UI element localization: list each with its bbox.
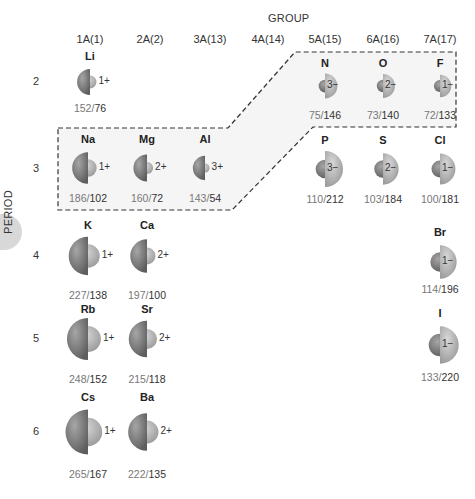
atomic-radius: 160 <box>131 192 149 204</box>
group-column-header: 6A(16) <box>353 33 413 45</box>
atom-ion-sphere-icon <box>165 138 245 198</box>
ionic-radius: 181 <box>441 193 459 205</box>
group-axis-title: GROUP <box>268 12 309 24</box>
ionic-radius: 72 <box>151 192 163 204</box>
ion-charge-label: 3− <box>327 79 338 90</box>
ion-charge-label: 1− <box>442 79 453 90</box>
ionic-radius: 220 <box>441 371 459 383</box>
atomic-radius: 186 <box>69 192 87 204</box>
atom-ion-sphere-icon <box>400 315 475 375</box>
atomic-radius: 72 <box>424 109 436 121</box>
ionic-radius: 76 <box>94 102 106 114</box>
atomic-radius: 103 <box>364 193 382 205</box>
ion-charge-label: 1− <box>442 338 453 349</box>
atomic-radius: 222 <box>128 468 146 480</box>
ion-charge-label: 3− <box>327 162 338 173</box>
group-column-header: 4A(14) <box>238 33 298 45</box>
ionic-radius: 152 <box>89 373 107 385</box>
radii-label: 133/220 <box>400 371 475 383</box>
ionic-radius: 196 <box>441 283 459 295</box>
period-row-header: 4 <box>28 249 44 261</box>
group-column-header: 1A(1) <box>60 33 120 45</box>
radii-label: 100/181 <box>400 193 475 205</box>
group-column-header: 7A(17) <box>410 33 470 45</box>
atom-ion-sphere-icon <box>107 309 187 369</box>
ion-charge-label: 2− <box>385 162 396 173</box>
atomic-radius: 227 <box>69 289 87 301</box>
radii-label: 143/54 <box>165 192 245 204</box>
ionic-radius: 135 <box>148 468 166 480</box>
atomic-radius: 248 <box>69 373 87 385</box>
period-row-header: 5 <box>28 332 44 344</box>
group-column-header: 3A(13) <box>180 33 240 45</box>
ionic-radius: 167 <box>89 468 107 480</box>
atomic-radius: 152 <box>74 102 92 114</box>
atomic-radius: 114 <box>421 283 438 295</box>
ionic-radius: 54 <box>209 192 221 204</box>
ionic-radius: 102 <box>89 192 107 204</box>
ionic-radius: 100 <box>148 289 166 301</box>
atomic-radius: 197 <box>128 289 146 301</box>
ionic-radius: 133 <box>439 109 457 121</box>
group-column-header: 2A(2) <box>120 33 180 45</box>
ion-charge-label: 1+ <box>98 75 109 86</box>
period-axis-title: PERIOD <box>2 190 14 234</box>
atomic-radius: 143 <box>189 192 207 204</box>
ion-charge-label: 2+ <box>158 249 169 260</box>
atomic-radius: 133 <box>421 371 439 383</box>
atomic-radius: 100 <box>421 193 439 205</box>
radii-label: 72/133 <box>400 109 475 121</box>
ion-charge-label: 2+ <box>160 425 171 436</box>
group-column-header: 5A(15) <box>295 33 355 45</box>
ion-charge-label: 1− <box>442 162 453 173</box>
ionic-radius: 118 <box>149 373 166 385</box>
atomic-radius: 73 <box>367 109 379 121</box>
radii-label: 222/135 <box>107 468 187 480</box>
radii-label: 197/100 <box>107 289 187 301</box>
atom-ion-sphere-icon <box>107 402 187 462</box>
period-row-header: 3 <box>28 162 44 174</box>
atomic-radius: 75 <box>309 109 321 121</box>
period-row-header: 2 <box>28 75 44 87</box>
atomic-radius: 265 <box>69 468 87 480</box>
period-row-header: 6 <box>28 425 44 437</box>
atom-ion-sphere-icon <box>107 226 187 286</box>
atomic-radius: 215 <box>128 373 146 385</box>
ionic-radius: 146 <box>324 109 342 121</box>
ionic-radius: 212 <box>326 193 344 205</box>
ion-charge-label: 3+ <box>212 161 223 172</box>
ion-charge-label: 2− <box>385 79 396 90</box>
ionic-radius: 138 <box>89 289 107 301</box>
ionic-radius: 140 <box>382 109 400 121</box>
ion-charge-label: 2+ <box>159 332 170 343</box>
ion-charge-label: 1− <box>442 255 453 266</box>
atom-ion-sphere-icon <box>400 56 475 116</box>
atom-ion-sphere-icon <box>400 139 475 199</box>
radii-label: 215/118 <box>107 373 187 385</box>
radii-label: 152/76 <box>50 102 130 114</box>
atomic-radius: 110 <box>306 193 323 205</box>
radii-label: 114/196 <box>400 283 475 295</box>
